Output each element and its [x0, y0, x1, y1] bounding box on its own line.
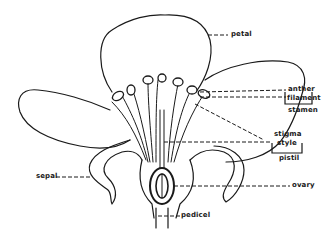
label-filament: filament [287, 95, 321, 102]
label-style: style [277, 140, 297, 147]
pedicel-shape [156, 208, 168, 228]
sepal-right [190, 146, 244, 202]
label-petal: petal [231, 31, 252, 38]
label-stigma: stigma [274, 131, 302, 138]
label-stamen: stamen [288, 107, 318, 114]
label-ovary: ovary [292, 182, 315, 189]
label-anther: anther [288, 86, 315, 93]
label-sepal: sepal [36, 173, 58, 180]
label-pedicel: pedicel [181, 212, 210, 219]
petal-top [101, 15, 211, 92]
label-pistil: pistil [279, 155, 299, 162]
sepal-left [89, 140, 142, 204]
flower-diagram [0, 0, 333, 233]
